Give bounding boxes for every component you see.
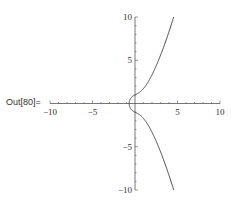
y-tick-label: −10 [118,185,133,195]
y-tick-label: −5 [122,142,132,152]
x-tick-label: −10 [43,107,58,117]
x-tick-label: −5 [88,107,98,117]
y-tick-label: 10 [123,12,133,22]
y-tick-label: 5 [128,55,133,65]
x-tick-label: 10 [216,107,226,117]
elliptic-curve-plot: −10−5510−10−5510 [0,0,231,202]
x-tick-label: 5 [175,107,180,117]
